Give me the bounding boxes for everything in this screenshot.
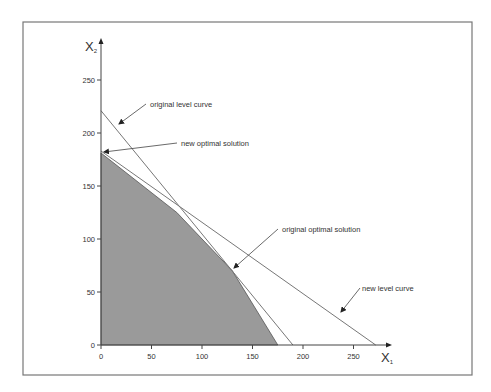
svg-text:new optimal solution: new optimal solution <box>181 139 249 148</box>
lp-sensitivity-figure: 0 50 100 150 200 250 X2 0 50 100 150 <box>0 0 491 392</box>
y-tick-label: 0 <box>91 341 95 350</box>
chart-canvas: 0 50 100 150 200 250 X2 0 50 100 150 <box>0 0 491 392</box>
x-tick-label: 150 <box>246 352 259 361</box>
svg-text:new level curve: new level curve <box>362 284 414 293</box>
y-tick-label: 150 <box>82 182 95 191</box>
x-tick-label: 0 <box>99 352 103 361</box>
x-tick-label: 100 <box>196 352 209 361</box>
y-tick-label: 100 <box>82 235 95 244</box>
svg-text:original optimal solution: original optimal solution <box>282 225 360 234</box>
x-tick-label: 50 <box>147 352 155 361</box>
x-tick-label: 250 <box>347 352 360 361</box>
y-tick-label: 250 <box>82 76 95 85</box>
y-tick-label: 50 <box>87 288 95 297</box>
y-tick-label: 200 <box>82 129 95 138</box>
x-tick-label: 200 <box>297 352 310 361</box>
svg-text:original level curve: original level curve <box>150 100 212 109</box>
